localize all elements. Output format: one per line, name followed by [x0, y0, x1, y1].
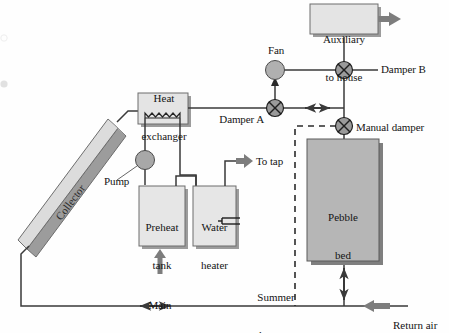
pump-label: Pump	[104, 175, 129, 187]
pebble-bed-label-line1: Pebble	[307, 211, 379, 224]
damper-b-label: Damper B	[381, 63, 426, 75]
manual-damper-label: Manual damper	[356, 121, 424, 133]
manual-damper-symbol	[336, 118, 353, 135]
diagram-canvas: Auxiliary to house Fan Damper B Heat exc…	[0, 0, 449, 333]
water-heater-label-line2: heater	[193, 259, 236, 272]
return-air-label: Return air from house	[393, 294, 449, 333]
fan-symbol	[266, 61, 285, 80]
heat-exchanger-label-line2: exchanger	[125, 130, 203, 143]
auxiliary-label-line1: Auxiliary	[310, 33, 378, 46]
preheat-to-waterheater-pipe	[176, 176, 196, 186]
water-heater-label-line1: Water	[193, 221, 236, 234]
to-tap-pipe	[225, 154, 253, 186]
scan-artifact	[0, 35, 7, 88]
pebble-bed-label-line2: bed	[307, 249, 379, 262]
main-supply-label: Main supply	[135, 274, 185, 333]
fan-label: Fan	[258, 44, 294, 56]
damper-a-symbol	[267, 100, 284, 117]
water-heater-label: Water heater	[193, 196, 236, 296]
damper-a-label: Damper A	[199, 113, 264, 125]
summer-bypass-label-line2: by-pass	[246, 329, 306, 333]
preheat-tank-label-line2: tank	[139, 259, 185, 272]
summer-bypass-label: Summer by-pass	[246, 266, 306, 333]
return-air-arrow	[363, 300, 390, 312]
heat-exchanger-label-line1: Heat	[125, 92, 203, 105]
to-tap-label: To tap	[256, 155, 283, 167]
summer-bypass-label-line1: Summer	[246, 291, 306, 304]
heat-exchanger-label: Heat exchanger	[125, 67, 203, 167]
auxiliary-label-line2: to house	[310, 71, 378, 84]
auxiliary-label: Auxiliary to house	[310, 8, 378, 108]
return-air-label-line1: Return air	[393, 319, 449, 332]
preheat-tank-label-line1: Preheat	[139, 221, 185, 234]
main-supply-label-line1: Main	[135, 299, 185, 312]
pebble-bed-label: Pebble bed	[307, 186, 379, 286]
